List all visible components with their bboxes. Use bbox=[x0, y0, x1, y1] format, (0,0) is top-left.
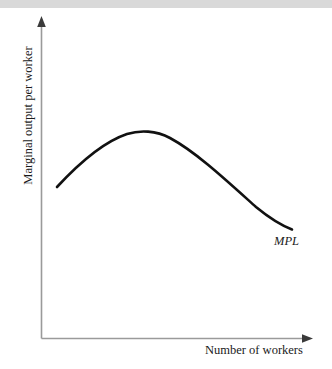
y-axis-arrowhead-icon bbox=[37, 16, 46, 27]
chart-plot-area bbox=[0, 0, 332, 369]
mpl-curve-label: MPL bbox=[274, 234, 299, 249]
figure-container: Marginal output per worker Number of wor… bbox=[0, 0, 332, 369]
x-axis-label: Number of workers bbox=[205, 343, 303, 358]
x-axis-arrowhead-icon bbox=[302, 334, 313, 343]
y-axis-label: Marginal output per worker bbox=[21, 26, 36, 206]
mpl-curve bbox=[57, 131, 292, 229]
